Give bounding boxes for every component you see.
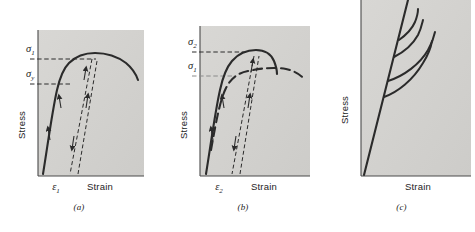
x-axis-label: Strain	[251, 181, 277, 192]
panel-a: Stress Strain σ1 σy ε1 (a)	[0, 0, 158, 232]
strain-label-epsilon1: ε1	[52, 181, 60, 195]
y-axis-label: Stress	[16, 111, 27, 139]
panel-c-plot: Stress Strain	[328, 0, 475, 200]
x-axis-label: Strain	[87, 181, 113, 192]
plot-area-background	[361, 0, 471, 176]
stress-label-sigma1: σ1	[26, 43, 35, 57]
plot-area-background	[200, 26, 310, 176]
stress-label-sigma2: σ2	[188, 36, 197, 50]
panel-b-plot: Stress Strain σ2 σ1 ε2	[158, 0, 328, 200]
panel-c: Stress Strain (c)	[328, 0, 475, 232]
stress-strain-figure: Stress Strain σ1 σy ε1 (a)	[0, 0, 475, 232]
stress-label-sigmay: σy	[26, 68, 35, 82]
panel-b-caption: (b)	[158, 202, 328, 212]
panel-a-plot: Stress Strain σ1 σy ε1	[0, 0, 158, 200]
panel-a-caption: (a)	[0, 202, 158, 212]
y-axis-label: Stress	[178, 111, 189, 139]
x-axis-label: Strain	[405, 181, 431, 192]
panel-b: Stress Strain σ2 σ1 ε2 (b)	[158, 0, 328, 232]
panel-c-caption: (c)	[328, 202, 475, 212]
stress-label-sigma1: σ1	[188, 60, 197, 74]
strain-label-epsilon2: ε2	[215, 181, 223, 195]
y-axis-label: Stress	[339, 96, 350, 124]
